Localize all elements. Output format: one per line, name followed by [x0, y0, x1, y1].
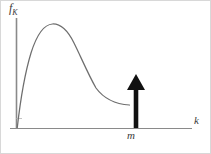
figure-container: fK k m — [0, 0, 211, 154]
delta-arrow-head — [127, 74, 145, 90]
x-axis-tick-label-m: m — [127, 130, 135, 141]
y-axis-label: fK — [9, 2, 18, 17]
x-axis-label: k — [194, 115, 199, 126]
density-curve — [17, 24, 129, 128]
delta-arrow — [127, 74, 145, 128]
y-axis-label-subscript: K — [12, 8, 17, 17]
plot-canvas — [0, 0, 211, 154]
